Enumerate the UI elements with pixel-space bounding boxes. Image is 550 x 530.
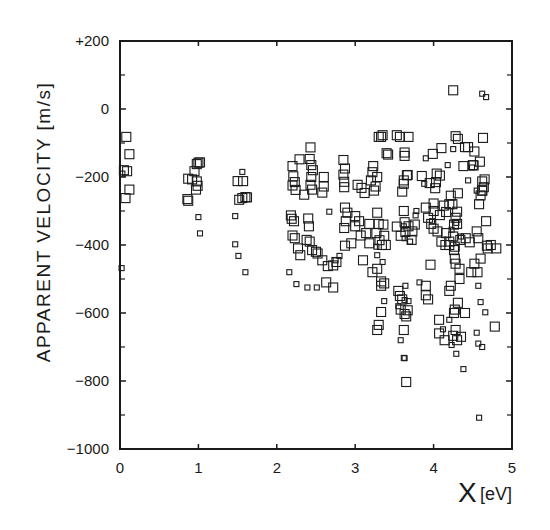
data-point-square (482, 217, 491, 226)
plot-border (120, 41, 512, 449)
data-point-square (490, 322, 499, 331)
data-point-square (440, 336, 449, 345)
y-tick-label: −400 (75, 236, 109, 253)
data-point-square (402, 378, 411, 387)
data-point-square (233, 214, 238, 219)
y-tick-label: −200 (75, 168, 109, 185)
data-point-square (295, 155, 304, 164)
data-point-square (450, 305, 459, 314)
data-point-square (290, 234, 299, 243)
data-point-square (288, 231, 297, 240)
data-point-square (319, 173, 328, 182)
series-large-squares (119, 86, 500, 387)
data-point-square (329, 283, 338, 292)
data-point-square (423, 156, 428, 161)
x-tick-label: 4 (429, 459, 437, 476)
data-point-square (467, 268, 476, 277)
data-point-square (365, 239, 374, 248)
data-point-square (455, 264, 464, 273)
data-point-square (453, 134, 462, 143)
data-point-square (432, 169, 441, 178)
series-small-squares (119, 91, 489, 420)
data-point-square (341, 203, 350, 212)
data-point-square (305, 285, 310, 290)
data-point-square (451, 326, 460, 335)
data-point-square (327, 209, 332, 214)
data-point-square (122, 132, 131, 141)
data-point-square (426, 260, 435, 269)
data-point-square (243, 270, 248, 275)
x-tick-label: 3 (351, 459, 359, 476)
data-point-square (431, 184, 440, 193)
data-point-square (408, 239, 413, 244)
data-point-square (360, 189, 369, 198)
data-point-square (424, 213, 433, 222)
data-point-square (294, 282, 299, 287)
data-point-square (454, 351, 459, 356)
data-point-square (461, 143, 470, 152)
data-point-square (382, 299, 387, 304)
data-point-square (287, 270, 292, 275)
data-point-square (323, 262, 332, 271)
data-point-square (125, 185, 134, 194)
y-axis-title: APPARENT VELOCITY [m/s] (33, 82, 54, 363)
data-point-square (449, 86, 458, 95)
data-point-square (474, 330, 479, 335)
data-point-square (375, 253, 380, 258)
data-point-square (408, 227, 417, 236)
data-point-square (306, 143, 315, 152)
data-point-square (398, 338, 403, 343)
data-point-square (198, 231, 203, 236)
data-point-square (477, 415, 482, 420)
data-point-square (437, 144, 446, 153)
data-point-square (486, 241, 495, 250)
y-tick-label: −1000 (67, 440, 109, 457)
data-point-square (125, 150, 134, 159)
data-point-square (233, 177, 242, 186)
data-point-square (340, 183, 349, 192)
data-point-square (403, 283, 408, 288)
data-point-square (121, 194, 130, 203)
data-point-square (451, 147, 456, 152)
data-point-square (373, 208, 382, 217)
data-point-square (435, 171, 444, 180)
x-tick-label: 1 (194, 459, 202, 476)
data-point-square (422, 181, 427, 186)
x-axis-title: X [eV] (458, 477, 512, 508)
x-axis-label: X (458, 477, 477, 508)
data-point-square (355, 217, 364, 226)
data-point-square (455, 275, 464, 284)
data-point-square (196, 215, 201, 220)
data-point-square (356, 231, 365, 240)
data-point-square (290, 217, 299, 226)
data-point-square (288, 162, 297, 171)
plot-frame (120, 41, 512, 449)
data-point-square (322, 278, 331, 287)
data-point-square (470, 259, 479, 268)
y-tick-label: −600 (75, 304, 109, 321)
data-point-square (466, 178, 471, 183)
scatter-chart: 012345 +2000−200−400−600−800−1000 APPARE… (0, 0, 550, 530)
data-point-square (461, 367, 466, 372)
y-axis-label: APPARENT VELOCITY [m/s] (33, 82, 54, 363)
data-point-square (475, 200, 484, 209)
data-point-square (399, 176, 408, 185)
data-point-square (428, 149, 437, 158)
data-point-square (294, 244, 303, 253)
data-point-square (236, 253, 241, 258)
data-point-square (404, 132, 413, 141)
x-axis-unit: [eV] (480, 484, 512, 504)
data-point-square (353, 180, 362, 189)
data-point-square (453, 298, 462, 307)
data-point-square (377, 308, 386, 317)
data-point-square (461, 309, 470, 318)
data-point-square (421, 281, 430, 290)
data-point-square (239, 177, 248, 186)
data-point-square (479, 133, 488, 142)
data-point-square (476, 254, 485, 263)
x-tick-label: 0 (116, 459, 124, 476)
data-point-square (400, 148, 409, 157)
data-point-square (296, 251, 305, 260)
data-point-square (347, 239, 356, 248)
data-point-square (240, 169, 245, 174)
